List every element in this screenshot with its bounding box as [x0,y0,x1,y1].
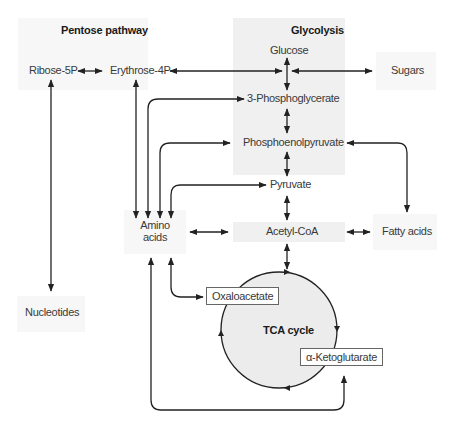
tca-cycle-label: TCA cycle [263,324,314,336]
node-alpha-ketoglutarate: α-Ketoglutarate [300,348,383,366]
glycolysis-heading: Glycolysis [291,24,344,36]
node-sugars: Sugars [391,64,424,76]
node-glucose: Glucose [270,44,308,56]
amino-line1: Amino [130,219,180,231]
node-fatty-acids: Fatty acids [382,225,432,237]
node-pyruvate: Pyruvate [270,178,311,190]
node-acetyl-coa: Acetyl-CoA [266,225,318,237]
amino-line2: acids [130,231,180,243]
node-oxaloacetate: Oxaloacetate [206,287,279,305]
node-ribose-5p: Ribose-5P [29,64,78,76]
pentose-pathway-heading: Pentose pathway [61,24,148,36]
node-phosphoenolpyruvate: Phosphoenolpyruvate [243,136,344,148]
node-erythrose-4p: Erythrose-4P [110,64,171,76]
node-nucleotides: Nucleotides [25,306,79,318]
node-amino-acids: Amino acids [130,219,180,243]
node-3-phosphoglycerate: 3-Phosphoglycerate [247,92,339,104]
